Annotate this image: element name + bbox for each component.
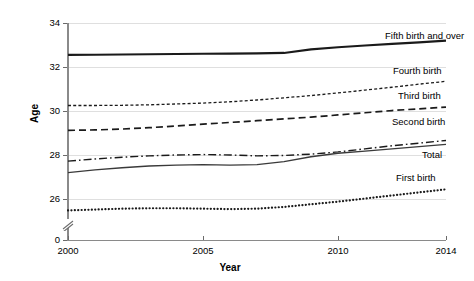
line-chart: Age Year 34 32 30 28 26 0 2000 2005 2010… bbox=[0, 0, 474, 281]
series-label-third-birth: Third birth bbox=[398, 90, 441, 101]
series-line-fifth-birth-and-over bbox=[68, 41, 446, 55]
series-label-total: Total bbox=[422, 149, 442, 160]
series-line-first-birth bbox=[68, 189, 446, 210]
series-plot-area bbox=[0, 0, 474, 281]
series-label-second-birth: Second birth bbox=[392, 116, 445, 127]
series-line-second-birth bbox=[68, 140, 446, 161]
series-line-third-birth bbox=[68, 107, 446, 130]
series-line-total bbox=[68, 144, 446, 172]
series-label-fourth-birth: Fourth birth bbox=[393, 65, 442, 76]
series-label-first-birth: First birth bbox=[396, 172, 436, 183]
series-label-fifth-birth-and-over: Fifth birth and over bbox=[385, 30, 464, 41]
series-line-fourth-birth bbox=[68, 81, 446, 105]
